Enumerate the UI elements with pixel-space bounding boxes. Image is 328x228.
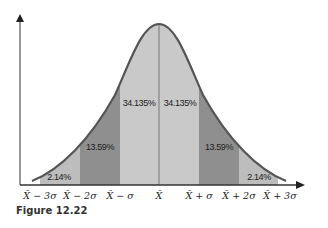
pct-label: 13.59% <box>86 142 115 152</box>
shaded-regions <box>0 0 328 185</box>
x-tick-label: X̄ − 3σ <box>22 190 57 201</box>
y-axis-arrow-icon <box>16 14 24 22</box>
region-plus2-plus3 <box>239 0 286 185</box>
x-tick-label: X̄ − σ <box>105 190 134 201</box>
pct-label: 34.135% <box>123 98 156 108</box>
x-tick-label: X̄ + 2σ <box>221 190 256 201</box>
pct-label: 2.14% <box>247 172 271 182</box>
pct-label: 13.59% <box>205 142 234 152</box>
region-minus3-minus2 <box>32 0 80 185</box>
region-mean-plus1 <box>159 0 199 185</box>
x-tick-label: X̄ − 2σ <box>62 190 97 201</box>
normal-distribution-diagram: 2.14% 13.59% 34.135% 34.135% 13.59% 2.14… <box>0 0 328 228</box>
x-tick-label: X̄ + σ <box>184 190 213 201</box>
figure-caption: Figure 12.22 <box>16 205 87 216</box>
region-minus1-mean <box>120 0 159 185</box>
x-tick-label: X̄ + 3σ <box>262 190 297 201</box>
x-axis-arrow-icon <box>296 181 305 189</box>
pct-label: 2.14% <box>47 172 71 182</box>
region-plus1-plus2 <box>199 0 239 185</box>
pct-label: 34.135% <box>164 98 197 108</box>
region-minus2-minus1 <box>80 0 120 185</box>
x-tick-label: X̄ <box>155 190 164 201</box>
